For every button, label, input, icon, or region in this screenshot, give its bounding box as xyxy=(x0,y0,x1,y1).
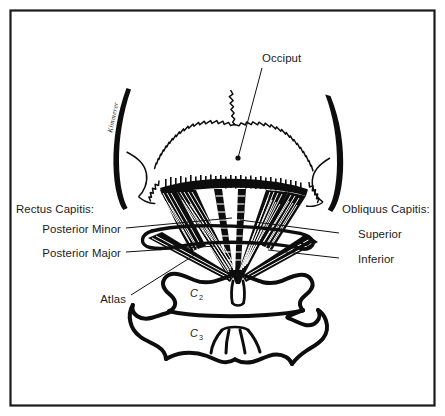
label-occiput: Occiput xyxy=(262,52,302,64)
label-c2: C xyxy=(190,287,198,299)
label-obliquus-inferior: Inferior xyxy=(358,253,394,265)
label-c3-subscript: 3 xyxy=(199,333,203,342)
suboccipital-muscles-figure: Kimmerer Occiput Rectus Capitis: Posteri… xyxy=(0,0,445,416)
occiput-pointer-dot xyxy=(235,155,240,160)
label-c2-subscript: 2 xyxy=(199,293,203,302)
label-rectus-capitis-heading: Rectus Capitis: xyxy=(16,203,94,215)
label-atlas: Atlas xyxy=(100,293,126,305)
label-obliquus-capitis-heading: Obliquus Capitis: xyxy=(342,203,430,215)
label-posterior-major: Posterior Major xyxy=(42,247,121,259)
label-posterior-minor: Posterior Minor xyxy=(42,223,121,235)
label-c3: C xyxy=(190,327,198,339)
diagram-canvas: Kimmerer Occiput Rectus Capitis: Posteri… xyxy=(0,0,445,416)
label-obliquus-superior: Superior xyxy=(358,228,402,240)
